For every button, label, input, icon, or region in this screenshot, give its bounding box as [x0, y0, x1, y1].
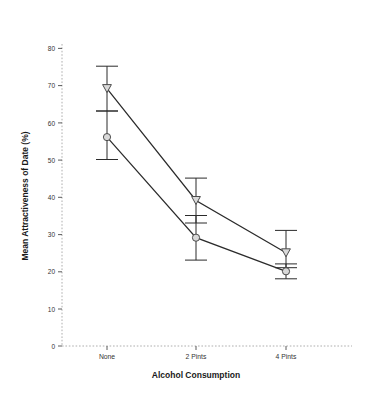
y-tick-label: 30 — [48, 231, 56, 238]
y-tick-label: 80 — [48, 45, 56, 52]
y-tick-label: 50 — [48, 157, 56, 164]
chart-container: 80 70 60 50 40 30 20 10 0 None 2 Pints — [0, 0, 380, 406]
y-tick-label: 10 — [48, 306, 56, 313]
x-axis-ticks: None 2 Pints 4 Pints — [99, 346, 297, 360]
y-tick-label: 0 — [51, 343, 55, 350]
line-chart: 80 70 60 50 40 30 20 10 0 None 2 Pints — [0, 0, 380, 406]
x-axis-title: Alcohol Consumption — [152, 370, 240, 380]
y-tick-label: 20 — [48, 268, 56, 275]
data-point-circle-none — [103, 134, 110, 141]
x-tick-label-2-pints: 2 Pints — [186, 353, 207, 360]
x-tick-label-none: None — [99, 353, 115, 360]
data-point-triangle-4-pints — [282, 249, 291, 257]
data-point-triangle-none — [103, 85, 112, 93]
x-tick-label-4-pints: 4 Pints — [276, 353, 297, 360]
data-point-circle-2-pints — [192, 234, 199, 241]
y-tick-label: 60 — [48, 120, 56, 127]
data-point-circle-4-pints — [282, 268, 289, 275]
y-tick-label: 40 — [48, 194, 56, 201]
y-axis-ticks: 80 70 60 50 40 30 20 10 0 — [48, 45, 62, 350]
y-tick-label: 70 — [48, 82, 56, 89]
y-axis-title: Mean Attractiveness of Date (%) — [20, 131, 30, 260]
data-point-triangle-2-pints — [192, 197, 201, 205]
